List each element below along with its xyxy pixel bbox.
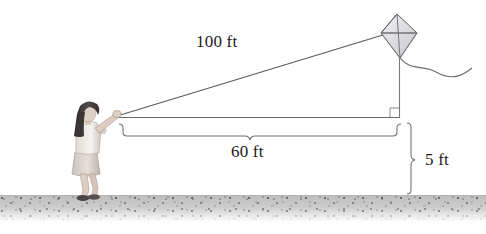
kite-tail <box>400 58 472 77</box>
base-label: 60 ft <box>231 143 264 160</box>
ground-icon <box>0 195 486 224</box>
hypotenuse-line <box>117 31 396 116</box>
right-angle-marker-icon <box>390 108 399 117</box>
kite-triangle-figure: 100 ft 60 ft 5 ft <box>0 0 486 234</box>
height-brace <box>407 123 415 194</box>
base-brace <box>119 124 401 140</box>
figure-canvas <box>0 0 486 234</box>
hypotenuse-label: 100 ft <box>196 33 237 50</box>
person-icon <box>72 101 121 201</box>
kite-icon <box>381 14 472 77</box>
height-label: 5 ft <box>425 151 449 168</box>
